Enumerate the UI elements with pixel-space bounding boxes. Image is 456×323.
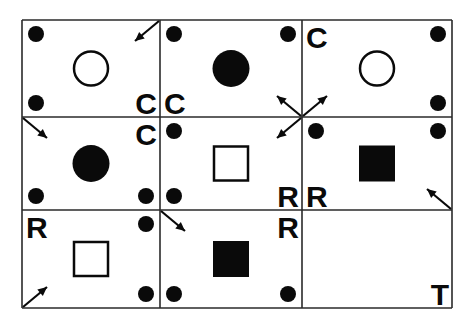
open-square-icon (74, 242, 108, 276)
filled-circle-icon (213, 50, 250, 87)
puzzle-grid: CCCCRRRRT (0, 0, 456, 323)
corner-dot-icon (138, 216, 154, 232)
corner-letter-c: C (306, 21, 328, 54)
corner-letter-c: C (135, 118, 157, 151)
corner-dot-icon (28, 95, 44, 111)
corner-dot-icon (28, 188, 44, 204)
corner-dot-icon (280, 26, 296, 42)
corner-dot-icon (166, 188, 182, 204)
corner-dot-icon (166, 123, 182, 139)
corner-dot-icon (280, 286, 296, 302)
corner-letter-t: T (431, 278, 449, 311)
open-square-icon (214, 147, 248, 181)
corner-dot-icon (308, 123, 324, 139)
corner-dot-icon (430, 95, 446, 111)
corner-letter-r: R (306, 180, 328, 213)
corner-dot-icon (138, 286, 154, 302)
corner-dot-icon (166, 286, 182, 302)
corner-dot-icon (430, 26, 446, 42)
corner-letter-r: R (277, 180, 299, 213)
corner-letter-r: R (277, 211, 299, 244)
corner-letter-c: C (135, 87, 157, 120)
corner-dot-icon (138, 188, 154, 204)
corner-letter-c: C (164, 87, 186, 120)
matrix-board: CCCCRRRRT (0, 0, 456, 323)
filled-circle-icon (73, 145, 110, 182)
corner-dot-icon (166, 26, 182, 42)
filled-square-icon (359, 146, 395, 182)
open-circle-icon (74, 52, 108, 86)
corner-dot-icon (430, 123, 446, 139)
corner-dot-icon (28, 26, 44, 42)
filled-square-icon (213, 241, 249, 277)
corner-letter-r: R (26, 211, 48, 244)
open-circle-icon (360, 52, 394, 86)
